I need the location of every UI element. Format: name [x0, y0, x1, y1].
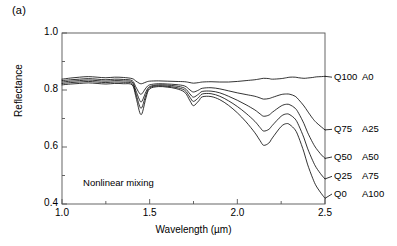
series-label: Q25A75 [334, 170, 379, 181]
x-axis-label: Wavelength (µm) [62, 224, 325, 235]
x-axis-tick-label: 1.5 [135, 207, 165, 218]
y-axis-label: Reflectance [13, 51, 24, 131]
series-label: Q75A25 [334, 123, 379, 134]
series-leader-line [325, 76, 332, 77]
series-line [62, 81, 325, 178]
y-axis-tick-label: 0.8 [32, 83, 58, 94]
x-axis-tick-label: 2.5 [310, 207, 340, 218]
series-leader-line [325, 129, 332, 130]
series-label: Q50A50 [334, 151, 379, 162]
series-label-a: A25 [362, 123, 379, 134]
series-label-a: A50 [362, 151, 379, 162]
series-label-q: Q75 [334, 123, 362, 134]
chart-annotation: Nonlinear mixing [83, 177, 154, 188]
series-label: Q100A0 [334, 71, 374, 82]
series-label: Q0A100 [334, 188, 384, 199]
y-axis-tick-label: 0.6 [32, 140, 58, 151]
y-axis-tick-label: 1.0 [32, 26, 58, 37]
x-axis-tick-label: 1.0 [47, 207, 77, 218]
figure-panel-a: (a) Reflectance Wavelength (µm) 0.40.60.… [0, 0, 397, 246]
series-label-a: A75 [362, 170, 379, 181]
series-label-a: A100 [362, 188, 384, 199]
series-leader-line [325, 157, 332, 158]
panel-label: (a) [12, 4, 26, 16]
series-label-q: Q100 [334, 71, 362, 82]
series-label-q: Q25 [334, 170, 362, 181]
series-label-a: A0 [362, 71, 374, 82]
x-axis-tick-label: 2.0 [222, 207, 252, 218]
series-label-q: Q50 [334, 151, 362, 162]
series-label-q: Q0 [334, 188, 362, 199]
series-leader-line [325, 176, 332, 179]
series-leader-line [325, 194, 332, 198]
